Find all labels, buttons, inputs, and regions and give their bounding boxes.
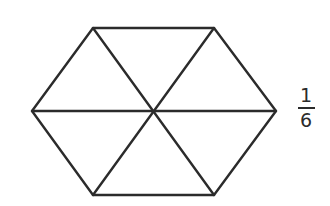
fraction-numerator: 1 xyxy=(300,86,312,107)
fraction-denominator: 6 xyxy=(300,109,312,130)
hexagon-diagram xyxy=(0,0,330,206)
fraction-label: 1 6 xyxy=(294,86,318,130)
